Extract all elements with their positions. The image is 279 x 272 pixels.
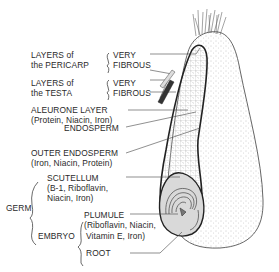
outer-endosperm-label-line1: OUTER ENDOSPERM — [31, 148, 118, 158]
plumule-label-line2: (Riboflavin, Niacin, — [84, 220, 156, 230]
endosperm-label: ENDOSPERM — [64, 123, 119, 133]
plumule-label-line1: PLUMULE — [84, 210, 124, 220]
scutellum-label-line3: Niacin, Iron) — [47, 193, 93, 203]
scutellum-label-line1: SCUTELLUM — [47, 173, 99, 183]
wheat-kernel-diagram: LAYERS of the PERICARP VERY FIBROUS LAYE… — [0, 0, 279, 272]
testa-label-line2: the TESTA — [31, 88, 72, 98]
pericarp-note-line1: VERY — [113, 50, 136, 60]
plumule-label-line3: Vitamin E, Iron) — [86, 231, 145, 241]
pericarp-note-line2: FIBROUS — [113, 60, 151, 70]
root-label: ROOT — [86, 248, 111, 258]
scutellum-label-line2: (B-1, Riboflavin, — [47, 183, 108, 193]
pericarp-label-line2: the PERICARP — [31, 60, 89, 70]
testa-note-line1: VERY — [113, 78, 136, 88]
pericarp-label-line1: LAYERS of — [31, 50, 74, 60]
testa-note-line2: FIBROUS — [113, 88, 151, 98]
germ-label: GERM — [6, 203, 32, 213]
testa-label-line1: LAYERS of — [31, 78, 74, 88]
aleurone-label-line1: ALEURONE LAYER — [31, 105, 108, 115]
outer-endosperm-label-line2: (Iron, Niacin, Protein) — [31, 158, 112, 168]
embryo-label: EMBRYO — [38, 231, 75, 241]
